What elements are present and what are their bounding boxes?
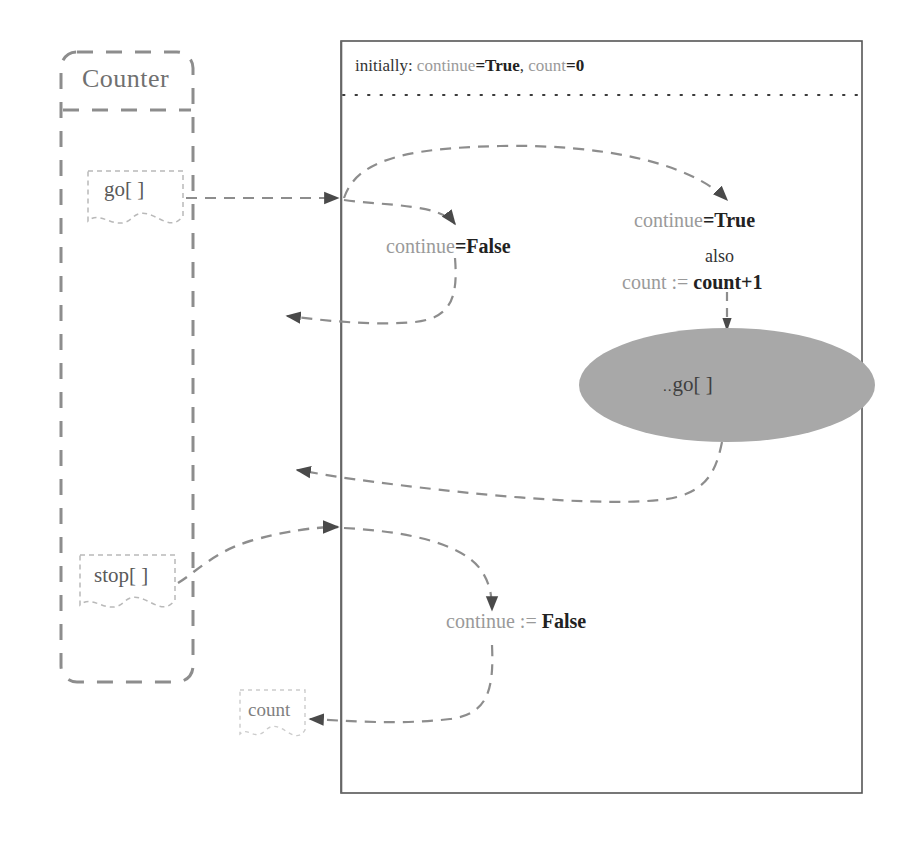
- statement-continue-true: continue=True: [634, 210, 755, 230]
- continue-false-op: =False: [455, 235, 511, 257]
- branch-to-continue-true: [344, 146, 727, 200]
- assign-count-name: count :=: [622, 271, 688, 293]
- initially-separator: ,: [520, 56, 524, 75]
- return-after-continue-false: [287, 258, 456, 323]
- count-note-label: count: [248, 700, 290, 719]
- branch-to-assign-continue-false: [344, 528, 492, 610]
- statement-assign-continue-false: continue := False: [446, 611, 586, 631]
- self-call-ellipse-label: ..go[ ]: [663, 374, 713, 395]
- counter-lifeline-name: Counter: [82, 66, 169, 92]
- ellipse-label-prefix: ..: [663, 378, 673, 394]
- diagram-canvas: Counter go[ ] stop[ ] count initially: c…: [0, 0, 903, 843]
- continue-false-name: continue: [386, 235, 455, 257]
- initially-prefix: initially:: [355, 56, 413, 75]
- ellipse-label-text: go[ ]: [673, 372, 713, 396]
- initially-var1-value: =True: [475, 56, 519, 75]
- statement-continue-false: continue=False: [386, 236, 511, 256]
- message-stop-call: [178, 527, 338, 583]
- initially-var2-value: =0: [566, 56, 584, 75]
- diagram-vector-layer: [0, 0, 903, 843]
- continue-true-name: continue: [634, 209, 703, 231]
- statement-assign-count: count := count+1: [622, 272, 762, 292]
- return-to-count-note: [310, 645, 492, 722]
- stop-note-label: stop[ ]: [94, 565, 148, 586]
- statement-also: also: [705, 247, 734, 265]
- go-note-label: go[ ]: [104, 179, 144, 200]
- continue-true-op: =True: [703, 209, 755, 231]
- branch-to-continue-false: [344, 200, 455, 224]
- assign-continue-op: False: [542, 610, 586, 632]
- assign-continue-name: continue :=: [446, 610, 537, 632]
- assign-count-op: count+1: [693, 271, 762, 293]
- frame-initially-line: initially: continue=True, count=0: [355, 57, 584, 74]
- initially-var1-name: continue: [417, 56, 476, 75]
- return-from-ellipse: [297, 442, 722, 502]
- self-call-ellipse[interactable]: [579, 328, 875, 442]
- initially-var2-name: count: [528, 56, 566, 75]
